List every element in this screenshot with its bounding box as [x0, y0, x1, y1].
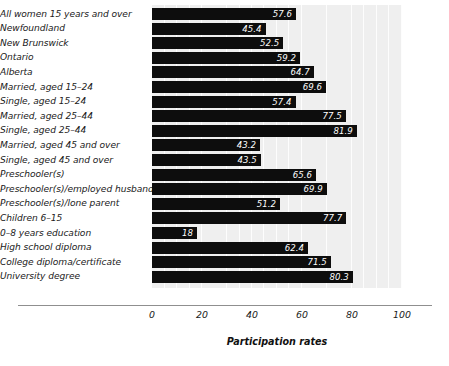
bar-row: 69.6	[152, 81, 402, 93]
bar-row: 57.6	[152, 8, 402, 20]
category-label: Preschooler(s)/lone parent	[0, 198, 143, 208]
bar-value-label: 59.2	[152, 52, 300, 64]
bar-value-label: 77.7	[152, 212, 346, 224]
category-label: New Brunswick	[0, 38, 143, 48]
x-axis-line	[18, 305, 432, 306]
category-label: Single, aged 15–24	[0, 96, 143, 106]
x-axis-tick-labels: 020406080100	[152, 309, 402, 323]
category-label-column: All women 15 years and overNewfoundlandN…	[0, 5, 146, 288]
bar-value-label: 81.9	[152, 125, 357, 137]
category-label: Married, aged 25–44	[0, 111, 143, 121]
category-label: Preschooler(s)	[0, 169, 143, 179]
x-tick-label: 20	[196, 309, 208, 320]
bar-value-label: 57.6	[152, 8, 296, 20]
category-label: High school diploma	[0, 242, 143, 252]
bar-row: 77.7	[152, 212, 402, 224]
bar-row: 80.3	[152, 271, 402, 283]
bar-value-label: 64.7	[152, 66, 314, 78]
x-axis-title: Participation rates	[152, 336, 402, 347]
bar-value-label: 71.5	[152, 256, 331, 268]
bar-row: 51.2	[152, 198, 402, 210]
bar-value-label: 77.5	[152, 110, 346, 122]
participation-rates-bar-chart: All women 15 years and overNewfoundlandN…	[0, 0, 449, 366]
bar-value-label: 69.9	[152, 183, 327, 195]
bar-value-label: 43.5	[152, 154, 261, 166]
bar-row: 45.4	[152, 23, 402, 35]
category-label: Married, aged 15–24	[0, 82, 143, 92]
bar-value-label: 52.5	[152, 37, 283, 49]
bar-row: 81.9	[152, 125, 402, 137]
bar-row: 43.5	[152, 154, 402, 166]
bar-row: 62.4	[152, 242, 402, 254]
category-label: Newfoundland	[0, 23, 143, 33]
category-label: Children 6–15	[0, 213, 143, 223]
bar-value-label: 65.6	[152, 169, 316, 181]
bar-row: 64.7	[152, 66, 402, 78]
category-label: Preschooler(s)/employed husband	[0, 184, 143, 194]
category-label: University degree	[0, 271, 143, 281]
x-tick-label: 40	[246, 309, 258, 320]
bar-value-label: 43.2	[152, 139, 260, 151]
category-label: Alberta	[0, 67, 143, 77]
category-label: Ontario	[0, 52, 143, 62]
bar-value-label: 51.2	[152, 198, 280, 210]
bar-row: 71.5	[152, 256, 402, 268]
category-label: Single, aged 45 and over	[0, 155, 143, 165]
x-tick-label: 60	[296, 309, 308, 320]
category-label: Single, aged 25–44	[0, 125, 143, 135]
bar-value-label: 57.4	[152, 96, 296, 108]
bar-value-label: 80.3	[152, 271, 353, 283]
category-label: College diploma/certificate	[0, 257, 143, 267]
x-tick-label: 0	[149, 309, 155, 320]
bar-row: 69.9	[152, 183, 402, 195]
bar-row: 57.4	[152, 96, 402, 108]
category-label: All women 15 years and over	[0, 9, 143, 19]
bar-row: 52.5	[152, 37, 402, 49]
bar-row: 18	[152, 227, 402, 239]
bar-value-label: 45.4	[152, 23, 266, 35]
bar-row: 59.2	[152, 52, 402, 64]
bar-row: 65.6	[152, 169, 402, 181]
x-tick-label: 80	[346, 309, 358, 320]
bar-value-label: 62.4	[152, 242, 308, 254]
bar-row: 77.5	[152, 110, 402, 122]
bar-value-label: 18	[152, 227, 197, 239]
category-label: 0–8 years education	[0, 228, 143, 238]
plot-area: 57.645.452.559.264.769.657.477.581.943.2…	[152, 5, 402, 288]
bar-row: 43.2	[152, 139, 402, 151]
bar-value-label: 69.6	[152, 81, 326, 93]
category-label: Married, aged 45 and over	[0, 140, 143, 150]
x-tick-label: 100	[393, 309, 411, 320]
